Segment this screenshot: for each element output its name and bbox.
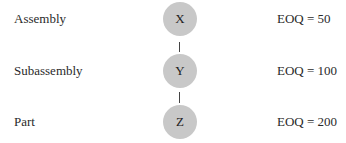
eoq-subassembly: EOQ = 100 xyxy=(277,63,337,79)
connector-y-z xyxy=(179,92,180,103)
level-label-subassembly: Subassembly xyxy=(14,63,83,79)
eoq-assembly: EOQ = 50 xyxy=(277,11,331,27)
node-label: Y xyxy=(175,63,184,79)
node-z: Z xyxy=(163,105,197,139)
level-label-part: Part xyxy=(14,114,35,130)
node-label: X xyxy=(175,11,184,27)
level-label-assembly: Assembly xyxy=(14,11,66,27)
connector-x-y xyxy=(179,42,180,52)
node-y: Y xyxy=(163,54,197,88)
node-label: Z xyxy=(176,114,184,130)
node-x: X xyxy=(163,2,197,36)
eoq-part: EOQ = 200 xyxy=(277,114,337,130)
